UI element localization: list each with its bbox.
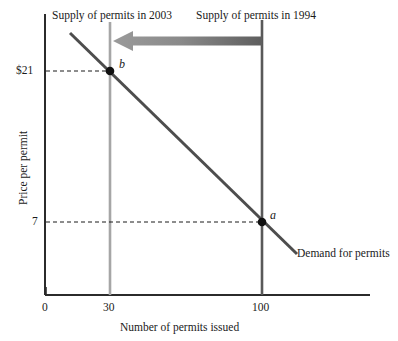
x-axis-title: Number of permits issued [120, 322, 239, 334]
x-tick-label-100: 100 [252, 302, 269, 314]
point-a-marker [258, 218, 267, 227]
y-axis-title: Price per permit [18, 131, 30, 205]
chart-figure: Supply of permits in 2003 Supply of perm… [0, 0, 398, 341]
point-b-label: b [119, 58, 125, 70]
point-a-label: a [270, 209, 276, 221]
x-tick-label-30: 30 [103, 302, 115, 314]
demand-curve-label: Demand for permits [297, 248, 390, 260]
shift-arrow-icon [113, 31, 262, 51]
x-tick-label-0: 0 [42, 302, 48, 314]
supply-2003-label: Supply of permits in 2003 [52, 10, 172, 22]
point-b-marker [106, 67, 115, 76]
y-tick-label-7: 7 [32, 216, 38, 228]
supply-1994-label: Supply of permits in 1994 [196, 10, 316, 22]
chart-canvas [0, 0, 398, 341]
y-tick-label-21: $21 [16, 65, 33, 77]
